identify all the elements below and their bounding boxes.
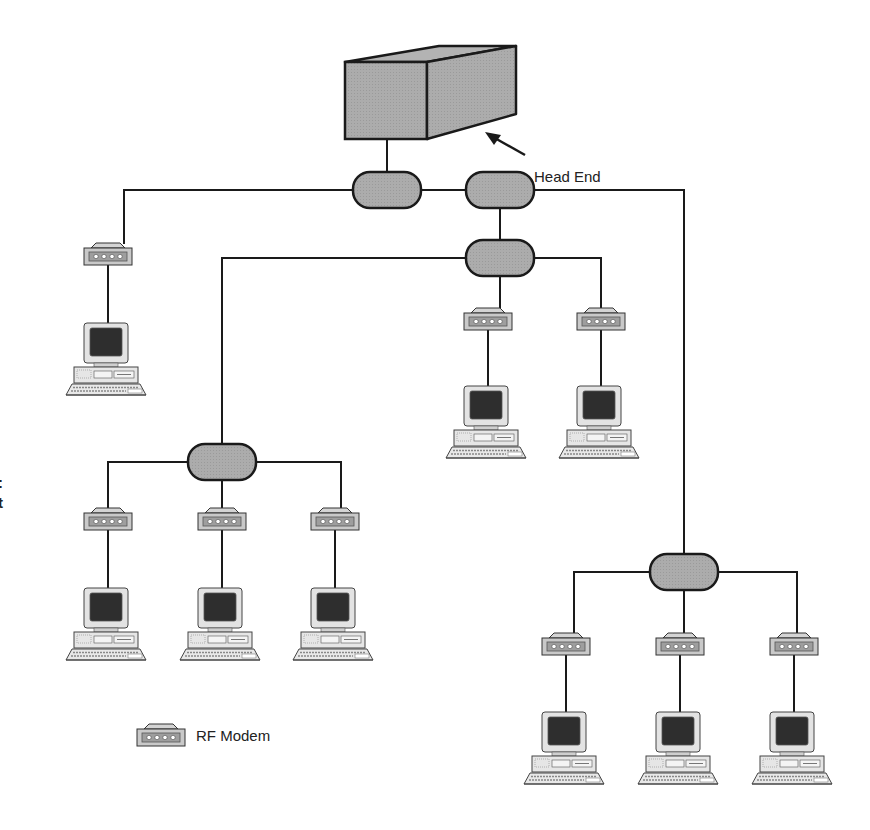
rf-modem-icon: [770, 633, 818, 655]
computer-icon: [752, 712, 832, 784]
network-diagram: [0, 0, 870, 830]
rf-modem-icon: [542, 633, 590, 655]
clipped-text-fragment: :: [0, 474, 3, 491]
rf-modem-icon: [84, 243, 132, 265]
legend-rf-modem-icon: [137, 724, 185, 746]
splitter-5: [650, 554, 718, 590]
computer-icon: [66, 323, 146, 395]
computer-icon: [293, 588, 373, 660]
head-end-box: [345, 46, 516, 139]
splitter-2: [466, 172, 534, 208]
head-end-label: Head End: [534, 168, 601, 185]
splitter-3: [466, 240, 534, 276]
rf-modem-icon: [577, 308, 625, 330]
rf-modem-icon: [656, 633, 704, 655]
splitter-1: [353, 172, 421, 208]
rf-modem-icon: [198, 508, 246, 530]
splitter-4: [188, 444, 256, 480]
clipped-text-fragment: t: [0, 494, 3, 511]
legend-rf-modem-label: RF Modem: [196, 727, 270, 744]
computer-icon: [524, 712, 604, 784]
computer-icon: [66, 588, 146, 660]
head-end-arrow: [485, 132, 525, 155]
computer-icon: [446, 386, 526, 458]
rf-modem-icon: [311, 508, 359, 530]
computer-icon: [638, 712, 718, 784]
rf-modem-icon: [464, 308, 512, 330]
computer-icon: [180, 588, 260, 660]
computer-icon: [559, 386, 639, 458]
rf-modem-icon: [84, 508, 132, 530]
